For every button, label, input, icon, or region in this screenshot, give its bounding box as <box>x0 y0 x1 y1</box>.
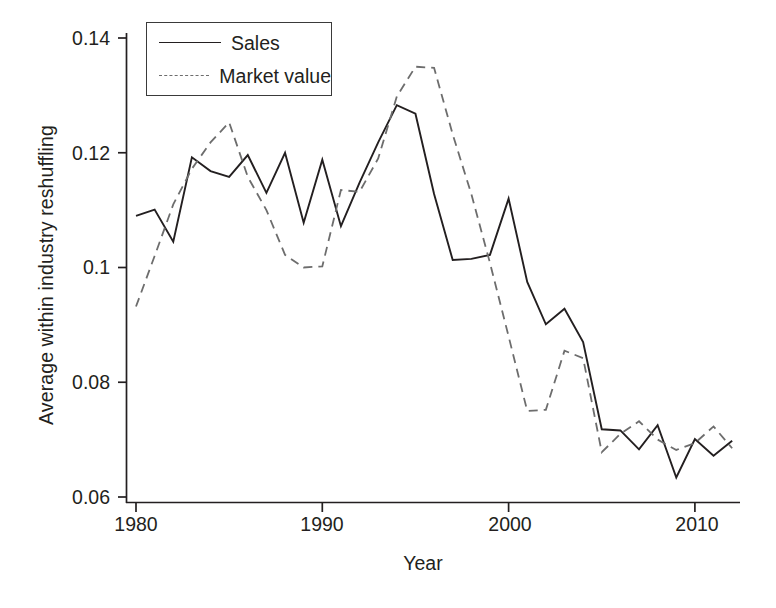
axis-lines <box>126 33 740 503</box>
chart-figure: Average within industry reshuffling Year… <box>0 0 776 608</box>
chart-legend: Sales Market value <box>146 22 332 96</box>
legend-item-market-value: Market value <box>147 59 331 93</box>
series-line-market-value <box>136 67 732 453</box>
legend-label-market-value: Market value <box>219 65 331 88</box>
plot-area <box>0 0 776 608</box>
legend-key-dashed-line-icon <box>159 70 209 82</box>
legend-item-sales: Sales <box>147 26 331 60</box>
legend-key-solid-line-icon <box>159 37 221 49</box>
x-axis-ticks <box>136 502 695 512</box>
legend-label-sales: Sales <box>231 32 280 55</box>
series-line-sales <box>136 105 732 477</box>
